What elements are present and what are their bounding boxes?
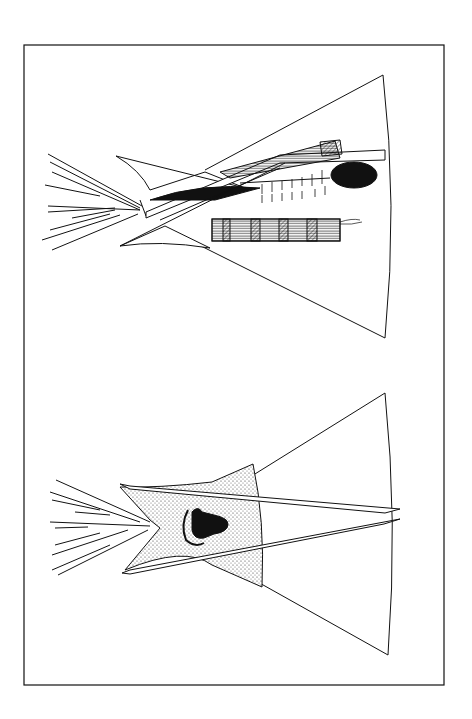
black-oval-icon [331,162,377,188]
upper-tipi [42,75,391,338]
lower-tipi [50,393,400,655]
tipi-illustration [0,0,472,719]
